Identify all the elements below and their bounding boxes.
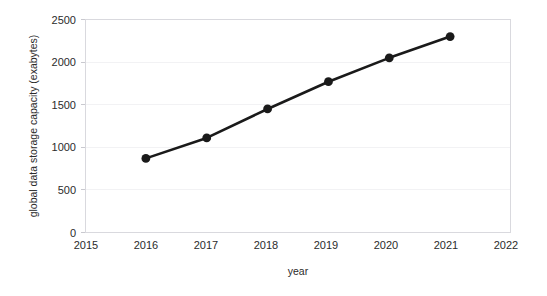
x-tick-label-2021: 2021 <box>434 239 458 251</box>
x-tick-label-2019: 2019 <box>314 239 338 251</box>
data-point-2016 <box>141 154 150 163</box>
y-tick-label-2000: 2000 <box>52 56 76 68</box>
y-tick-label-2500: 2500 <box>52 14 76 26</box>
chart-background <box>0 0 547 296</box>
y-tick-label-1000: 1000 <box>52 141 76 153</box>
chart-container: 0 500 1000 1500 2000 2500 2015 2016 2017… <box>0 0 547 296</box>
x-tick-label-2018: 2018 <box>254 239 278 251</box>
data-point-2021 <box>446 32 455 41</box>
y-axis-title: global data storage capacity (exabytes) <box>27 35 39 218</box>
data-point-2019 <box>324 77 333 86</box>
y-tick-label-500: 500 <box>58 184 76 196</box>
x-tick-label-2022: 2022 <box>494 239 518 251</box>
x-tick-label-2015: 2015 <box>74 239 98 251</box>
x-axis-title: year <box>288 265 309 277</box>
line-chart: 0 500 1000 1500 2000 2500 2015 2016 2017… <box>0 0 547 296</box>
x-tick-label-2016: 2016 <box>134 239 158 251</box>
y-tick-label-1500: 1500 <box>52 99 76 111</box>
y-tick-label-0: 0 <box>70 227 76 239</box>
data-point-2018 <box>263 105 272 114</box>
data-point-2020 <box>385 53 394 62</box>
x-tick-label-2020: 2020 <box>374 239 398 251</box>
data-point-2017 <box>202 134 211 143</box>
x-tick-label-2017: 2017 <box>194 239 218 251</box>
